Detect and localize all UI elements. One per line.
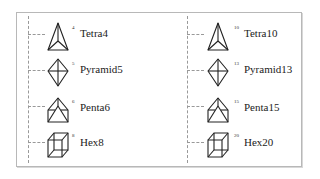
tree-branch	[187, 34, 204, 35]
element-label-penta15: Penta15	[244, 102, 279, 113]
tree-vertical-line-left	[28, 16, 29, 163]
element-label-hex20: Hex20	[244, 137, 273, 148]
tree-branch	[28, 142, 45, 143]
node-count: 8	[72, 133, 75, 138]
pyramid-icon	[47, 58, 69, 88]
tree-branch	[28, 106, 45, 107]
node-count: 4	[72, 25, 75, 30]
element-label-tetra10: Tetra10	[244, 28, 277, 39]
tree-branch	[187, 70, 204, 71]
element-label-pyramid13: Pyramid13	[244, 64, 292, 75]
element-label-pyramid5: Pyramid5	[80, 64, 123, 75]
node-count: 20	[234, 133, 239, 138]
pentahedron-icon	[207, 96, 229, 126]
element-label-penta6: Penta6	[80, 102, 110, 113]
tetrahedron-icon	[207, 22, 229, 52]
tree-branch	[187, 142, 204, 143]
element-label-tetra4: Tetra4	[80, 28, 108, 39]
node-count: 10	[234, 25, 239, 30]
tree-vertical-line-right	[187, 16, 188, 163]
element-label-hex8: Hex8	[80, 137, 104, 148]
hexahedron-icon	[47, 130, 69, 160]
hexahedron-icon	[207, 130, 229, 160]
node-count: 15	[234, 99, 239, 104]
tetrahedron-icon	[47, 22, 69, 52]
tree-branch	[187, 106, 204, 107]
node-count: 13	[234, 61, 239, 66]
pyramid-icon	[207, 58, 229, 88]
tree-branch	[28, 70, 45, 71]
tree-branch	[28, 34, 45, 35]
pentahedron-icon	[47, 96, 69, 126]
node-count: 5	[72, 61, 75, 66]
node-count: 6	[72, 99, 75, 104]
